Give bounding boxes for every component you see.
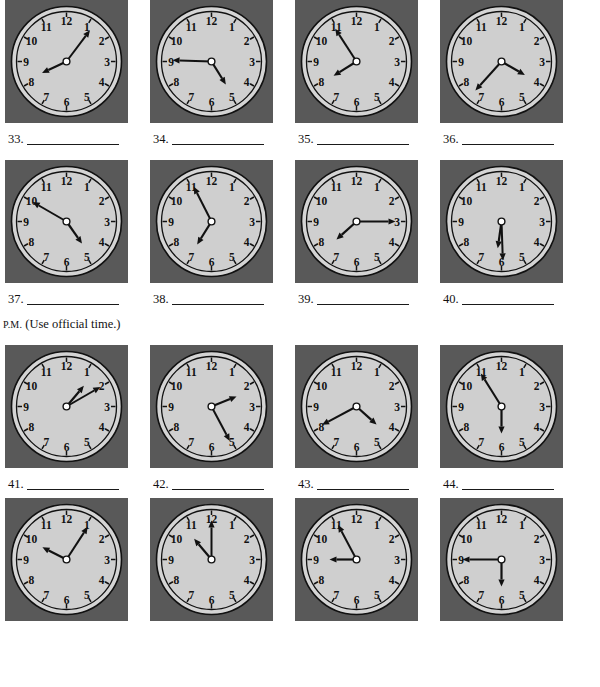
svg-text:5: 5 <box>519 91 525 103</box>
svg-text:8: 8 <box>174 574 180 586</box>
svg-text:7: 7 <box>188 91 194 103</box>
svg-text:8: 8 <box>174 421 180 433</box>
answer-cell: 38. <box>145 283 290 307</box>
svg-text:6: 6 <box>354 594 360 606</box>
svg-text:5: 5 <box>229 436 235 448</box>
svg-text:11: 11 <box>476 181 487 193</box>
clock-row-2: 121234567891011 121234567891011 12123456… <box>0 160 600 283</box>
answer-line-44: 44. <box>443 477 580 492</box>
svg-text:11: 11 <box>186 519 197 531</box>
svg-text:8: 8 <box>319 574 325 586</box>
answer-blank[interactable] <box>317 293 409 305</box>
answer-cell: 40. <box>435 283 580 307</box>
svg-text:8: 8 <box>464 421 470 433</box>
clock-40: 121234567891011 <box>440 160 563 283</box>
svg-text:12: 12 <box>496 15 508 27</box>
svg-text:3: 3 <box>249 401 255 413</box>
svg-text:3: 3 <box>104 56 110 68</box>
svg-text:9: 9 <box>168 56 174 68</box>
svg-text:9: 9 <box>23 56 29 68</box>
answer-blank[interactable] <box>27 478 119 490</box>
svg-text:6: 6 <box>64 441 70 453</box>
svg-text:1: 1 <box>519 181 525 193</box>
svg-text:2: 2 <box>99 35 105 47</box>
svg-text:12: 12 <box>351 175 363 187</box>
answer-line-41: 41. <box>8 477 145 492</box>
svg-text:1: 1 <box>374 519 380 531</box>
svg-text:10: 10 <box>171 380 183 392</box>
svg-text:2: 2 <box>244 195 250 207</box>
answer-blank[interactable] <box>27 293 119 305</box>
svg-text:5: 5 <box>84 91 90 103</box>
answer-blank[interactable] <box>317 133 409 145</box>
answer-blank[interactable] <box>462 293 554 305</box>
svg-text:7: 7 <box>188 589 194 601</box>
clock-cell: 121234567891011 <box>290 0 435 123</box>
clock-cell: 121234567891011 <box>435 498 580 621</box>
svg-text:10: 10 <box>461 380 473 392</box>
answer-blank[interactable] <box>172 478 264 490</box>
svg-text:3: 3 <box>249 216 255 228</box>
svg-text:11: 11 <box>41 21 52 33</box>
svg-text:6: 6 <box>499 594 505 606</box>
svg-text:9: 9 <box>168 216 174 228</box>
clock-row-3: 121234567891011 121234567891011 12123456… <box>0 345 600 468</box>
svg-text:4: 4 <box>534 421 540 433</box>
svg-text:6: 6 <box>209 441 215 453</box>
question-number: 44. <box>443 477 459 491</box>
svg-text:4: 4 <box>389 76 395 88</box>
svg-text:12: 12 <box>496 175 508 187</box>
svg-text:6: 6 <box>354 96 360 108</box>
instruction-body: (Use official time.) <box>22 317 120 331</box>
answer-blank[interactable] <box>172 293 264 305</box>
svg-text:5: 5 <box>229 91 235 103</box>
answer-row-3: 41.42.43.44. <box>0 468 600 492</box>
svg-text:8: 8 <box>464 76 470 88</box>
svg-text:3: 3 <box>539 554 545 566</box>
clock-cell: 121234567891011 <box>435 160 580 283</box>
svg-text:7: 7 <box>478 436 484 448</box>
svg-text:1: 1 <box>84 21 90 33</box>
svg-text:12: 12 <box>351 513 363 525</box>
svg-text:3: 3 <box>394 401 400 413</box>
svg-text:5: 5 <box>84 589 90 601</box>
clock-cell: 121234567891011 <box>145 0 290 123</box>
svg-text:3: 3 <box>249 56 255 68</box>
clock-46: 121234567891011 <box>150 498 273 621</box>
clock-35: 121234567891011 <box>295 0 418 123</box>
svg-text:2: 2 <box>244 35 250 47</box>
question-number: 40. <box>443 292 459 306</box>
clock-row-4: 121234567891011 121234567891011 12123456… <box>0 498 600 621</box>
answer-blank[interactable] <box>27 133 119 145</box>
svg-text:8: 8 <box>29 76 35 88</box>
question-number: 36. <box>443 132 459 146</box>
svg-text:7: 7 <box>43 436 49 448</box>
svg-text:4: 4 <box>244 421 250 433</box>
clock-cell: 121234567891011 <box>290 345 435 468</box>
svg-text:12: 12 <box>61 15 73 27</box>
answer-blank[interactable] <box>317 478 409 490</box>
svg-text:7: 7 <box>333 436 339 448</box>
answer-cell: 41. <box>0 468 145 492</box>
svg-text:4: 4 <box>99 574 105 586</box>
svg-text:7: 7 <box>43 91 49 103</box>
answer-blank[interactable] <box>462 133 554 145</box>
svg-text:5: 5 <box>229 251 235 263</box>
svg-text:3: 3 <box>539 216 545 228</box>
svg-text:2: 2 <box>244 380 250 392</box>
clock-cell: 121234567891011 <box>0 498 145 621</box>
clock-cell: 121234567891011 <box>435 345 580 468</box>
svg-text:9: 9 <box>168 554 174 566</box>
answer-blank[interactable] <box>462 478 554 490</box>
svg-text:9: 9 <box>168 401 174 413</box>
svg-text:10: 10 <box>316 380 328 392</box>
svg-text:11: 11 <box>331 366 342 378</box>
clock-41: 121234567891011 <box>5 345 128 468</box>
question-number: 39. <box>298 292 314 306</box>
question-number: 33. <box>8 132 24 146</box>
answer-blank[interactable] <box>172 133 264 145</box>
svg-text:4: 4 <box>244 76 250 88</box>
svg-text:7: 7 <box>333 589 339 601</box>
svg-text:2: 2 <box>99 533 105 545</box>
svg-text:2: 2 <box>389 533 395 545</box>
